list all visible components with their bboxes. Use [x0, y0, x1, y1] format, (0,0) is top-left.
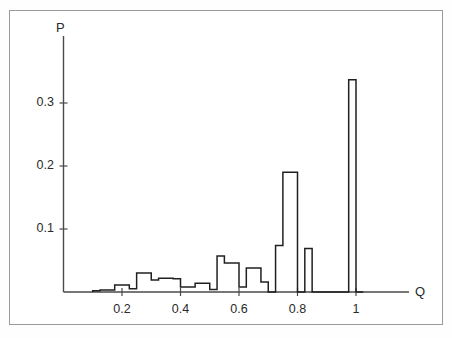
x-tick-label: 0.4 — [161, 302, 201, 316]
y-tick-label: 0.2 — [24, 158, 54, 172]
histogram-step-outline — [93, 80, 364, 292]
x-tick-label: 0.6 — [219, 302, 259, 316]
y-axis-label: P — [56, 20, 65, 35]
x-axis-label: Q — [415, 284, 425, 299]
x-tick-label: 0.8 — [278, 302, 318, 316]
x-tick-label: 1 — [336, 302, 376, 316]
axis-lines — [64, 36, 410, 292]
x-tick-label: 0.2 — [102, 302, 142, 316]
y-tick-label: 0.3 — [24, 95, 54, 109]
histogram-plot — [0, 0, 452, 338]
y-tick-label: 0.1 — [24, 221, 54, 235]
figure-root: P Q 0.10.20.3 0.20.40.60.81 — [0, 0, 452, 338]
